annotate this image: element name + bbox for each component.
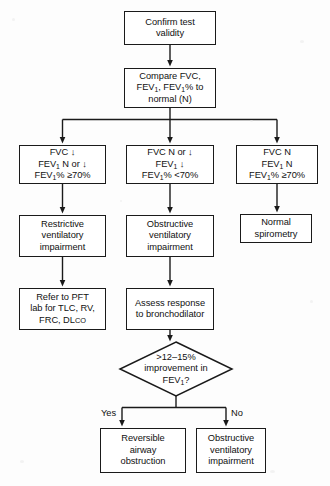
scan-artifact bbox=[40, 300, 43, 303]
scan-artifact bbox=[120, 200, 122, 202]
node-label-normal-spirometry: Normalspirometry bbox=[241, 217, 311, 240]
node-label-assess-response: Assess responseto bronchodilator bbox=[127, 298, 213, 321]
scan-artifact bbox=[270, 470, 275, 473]
node-label-cond-obstructive: FVC N or ↓FEV1 ↓FEV1% <70% bbox=[127, 147, 213, 181]
scan-artifact bbox=[250, 120, 253, 122]
node-obstructive-impairment-2: Obstructiveventilatoryimpairment bbox=[196, 428, 266, 473]
node-cond-obstructive: FVC N or ↓FEV1 ↓FEV1% <70% bbox=[126, 145, 214, 184]
node-refer-pft: Refer to PFTlab for TLC, RV,FRC, DLCO bbox=[19, 288, 106, 330]
scan-artifact bbox=[300, 40, 304, 43]
node-label-compare: Compare FVC,FEV1, FEV1% tonormal (N) bbox=[125, 71, 215, 105]
node-decision-improvement: >12–15%improvement inFEV1? bbox=[120, 342, 232, 396]
node-obstructive-impairment: Obstructiveventilatoryimpairment bbox=[126, 215, 214, 257]
node-cond-normal: FVC NFEV1 NFEV1% ≥70% bbox=[236, 145, 318, 184]
edge-label-yes-label: Yes bbox=[101, 408, 116, 418]
node-restrictive-impairment: Restrictiveventilatoryimpairment bbox=[19, 215, 106, 257]
node-label-cond-normal: FVC NFEV1 NFEV1% ≥70% bbox=[237, 147, 317, 181]
edge-label-no-label: No bbox=[231, 408, 243, 418]
node-cond-restrictive: FVC ↓FEV1 N or ↓FEV1% ≥70% bbox=[19, 145, 106, 184]
scan-artifact bbox=[310, 300, 313, 303]
node-label-restrictive-impairment: Restrictiveventilatoryimpairment bbox=[20, 219, 105, 253]
node-normal-spirometry: Normalspirometry bbox=[240, 214, 312, 243]
node-label-obstructive-impairment-2: Obstructiveventilatoryimpairment bbox=[197, 433, 265, 467]
node-label-confirm: Confirm testvalidity bbox=[125, 17, 215, 40]
node-label-reversible-airway: Reversibleairwayobstruction bbox=[101, 433, 185, 467]
node-compare: Compare FVC,FEV1, FEV1% tonormal (N) bbox=[124, 68, 216, 108]
scan-artifact bbox=[12, 18, 15, 21]
node-label-obstructive-impairment: Obstructiveventilatoryimpairment bbox=[127, 219, 213, 253]
node-reversible-airway: Reversibleairwayobstruction bbox=[100, 428, 186, 473]
node-label-refer-pft: Refer to PFTlab for TLC, RV,FRC, DLCO bbox=[20, 292, 105, 326]
node-confirm: Confirm testvalidity bbox=[124, 11, 216, 45]
node-label-decision-improvement: >12–15%improvement inFEV1? bbox=[144, 352, 208, 386]
node-label-cond-restrictive: FVC ↓FEV1 N or ↓FEV1% ≥70% bbox=[20, 147, 105, 181]
node-assess-response: Assess responseto bronchodilator bbox=[126, 288, 214, 330]
scan-artifact bbox=[20, 460, 24, 463]
